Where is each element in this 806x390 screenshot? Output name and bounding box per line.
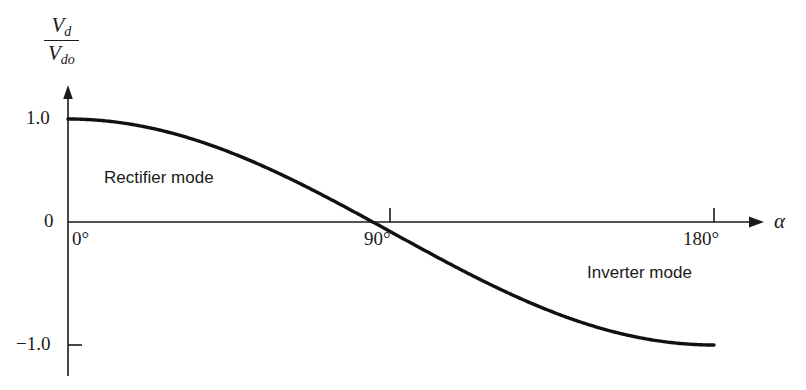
- y-tick-label-bottom: −1.0: [16, 333, 50, 355]
- x-tick-label-0: 0°: [72, 228, 89, 250]
- x-tick-label-180: 180°: [683, 228, 719, 250]
- y-tick-label-zero: 0: [44, 210, 54, 232]
- x-axis-symbol: α: [774, 209, 785, 234]
- x-axis-arrowhead: [749, 217, 764, 228]
- chart-figure: Vd Vdo 1.0 0 −1.0 0° 90° 180° α Rectifie…: [0, 0, 806, 390]
- y-axis-label: Vd Vdo: [44, 14, 79, 68]
- cosine-curve: [68, 119, 714, 345]
- annotation-rectifier-mode: Rectifier mode: [104, 168, 214, 188]
- annotation-inverter-mode: Inverter mode: [587, 263, 692, 283]
- y-axis-label-denominator: Vdo: [44, 41, 79, 68]
- y-axis-label-numerator: Vd: [44, 14, 79, 41]
- y-tick-label-top: 1.0: [26, 107, 50, 129]
- x-tick-label-90: 90°: [364, 228, 391, 250]
- chart-canvas: [0, 0, 806, 390]
- y-axis-arrowhead: [63, 85, 73, 99]
